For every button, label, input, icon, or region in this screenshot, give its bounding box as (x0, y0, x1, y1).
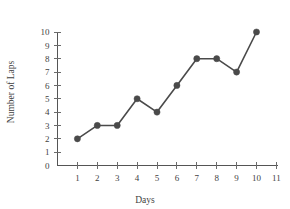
y-tick-label: 0 (45, 161, 50, 171)
data-point-marker (154, 109, 160, 115)
data-point-marker (234, 69, 240, 75)
series-line-laps (77, 32, 256, 139)
data-point-marker (214, 56, 220, 62)
y-tick-label: 6 (45, 81, 50, 91)
line-chart: 012345678910 1234567891011 Days Number o… (0, 0, 290, 209)
data-point-marker (74, 136, 80, 142)
y-tick-label: 9 (45, 41, 50, 51)
x-tick-label: 5 (155, 173, 160, 183)
y-tick-label: 5 (45, 94, 50, 104)
x-tick-label: 8 (214, 173, 219, 183)
x-tick-label: 9 (234, 173, 239, 183)
y-tick-label: 2 (45, 134, 50, 144)
data-series-laps (74, 29, 259, 142)
y-tick-label: 4 (45, 107, 50, 117)
data-point-marker (114, 122, 120, 128)
y-tick-label: 3 (45, 121, 50, 131)
x-axis-title: Days (135, 195, 155, 205)
x-tick-label: 7 (195, 173, 200, 183)
data-point-marker (194, 56, 200, 62)
y-tick-label: 1 (45, 147, 50, 157)
x-tick-label: 10 (252, 173, 262, 183)
data-point-marker (94, 122, 100, 128)
y-axis-tick-labels: 012345678910 (41, 27, 51, 171)
x-tick-label: 4 (135, 173, 140, 183)
x-tick-label: 3 (115, 173, 120, 183)
chart-canvas: 012345678910 1234567891011 Days Number o… (0, 0, 290, 209)
data-point-marker (174, 82, 180, 88)
y-axis-title: Number of Laps (6, 61, 16, 124)
x-axis-tick-labels: 1234567891011 (75, 173, 281, 183)
x-tick-label: 6 (175, 173, 180, 183)
y-tick-label: 7 (45, 67, 50, 77)
x-tick-label: 11 (272, 173, 281, 183)
data-point-marker (134, 96, 140, 102)
x-tick-label: 1 (75, 173, 80, 183)
y-tick-label: 8 (45, 54, 50, 64)
data-point-marker (253, 29, 259, 35)
y-tick-label: 10 (41, 27, 51, 37)
x-tick-label: 2 (95, 173, 100, 183)
